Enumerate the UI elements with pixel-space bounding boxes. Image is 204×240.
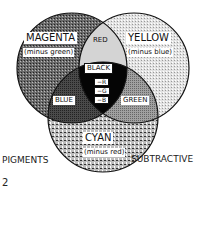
magenta-label: MAGENTA — [24, 32, 77, 44]
black-label: BLACK — [84, 63, 113, 74]
blue-label: BLUE — [53, 96, 75, 105]
subtractive-caption: SUBTRACTIVE — [131, 155, 193, 164]
minus-g: −G — [94, 87, 110, 95]
yellow-label: YELLOW — [126, 32, 171, 44]
minus-b: −B — [94, 96, 109, 104]
red-label: RED — [91, 36, 110, 45]
figure-number: 2 — [2, 178, 8, 188]
green-label: GREEN — [121, 96, 149, 105]
magenta-subtitle: (minus green) — [23, 48, 74, 57]
cyan-label: CYAN — [83, 132, 113, 144]
minus-r: −R — [94, 78, 109, 86]
cyan-subtitle: (minus red) — [83, 148, 125, 157]
pigments-caption: PIGMENTS — [2, 156, 48, 165]
yellow-subtitle: (minus blue) — [127, 48, 173, 57]
